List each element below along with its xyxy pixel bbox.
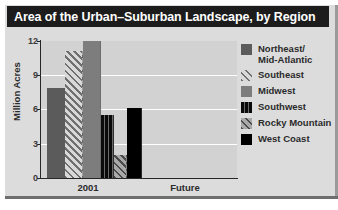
legend-item-southeast[interactable]: Southeast: [241, 69, 336, 81]
bar-southwest-2001: [101, 115, 114, 178]
legend-label-northeast-mid-atlantic: Northeast/ Mid-Atlantic: [258, 43, 312, 65]
y-tick-label-12: 12: [22, 37, 38, 46]
x-axis-line: [40, 178, 238, 179]
legend-item-rocky-mountain[interactable]: Rocky Mountain: [241, 117, 336, 129]
legend-swatch-icon-southeast: [241, 70, 252, 81]
legend-label-west-coast: West Coast: [258, 133, 310, 144]
chart-legend: Northeast/ Mid-Atlantic Southeast Midwes…: [241, 43, 336, 149]
chart-title-bar: Area of the Urban–Suburban Landscape, by…: [7, 6, 329, 27]
legend-label-rocky-mountain: Rocky Mountain: [258, 117, 331, 128]
y-axis-title: Million Acres: [11, 47, 22, 137]
y-tick-label-0: 0: [22, 174, 38, 183]
x-tick-label-2001: 2001: [58, 182, 118, 193]
legend-swatch-icon-northeast-mid-atlantic: [241, 44, 252, 55]
legend-swatch-icon-rocky-mountain: [241, 118, 252, 129]
figure-margin-left: [0, 0, 5, 210]
y-tick-label-6: 6: [22, 105, 38, 114]
legend-item-midwest[interactable]: Midwest: [241, 85, 336, 97]
figure-margin-bottom: [0, 199, 338, 210]
legend-label-southeast: Southeast: [258, 69, 304, 80]
legend-item-northeast-mid-atlantic[interactable]: Northeast/ Mid-Atlantic: [241, 43, 336, 65]
bar-rocky-mountain-2001: [114, 155, 127, 178]
legend-label-southwest: Southwest: [258, 101, 306, 112]
legend-label-midwest: Midwest: [258, 85, 295, 96]
legend-swatch-icon-southwest: [241, 102, 252, 113]
bar-west-coast-2001: [127, 108, 142, 178]
y-tick-label-3: 3: [22, 140, 38, 149]
bar-northeast-mid-atlantic-2001: [47, 88, 65, 178]
plot-area: [41, 41, 237, 178]
page-title: Area of the Urban–Suburban Landscape, by…: [7, 10, 316, 24]
chart-figure: Area of the Urban–Suburban Landscape, by…: [0, 0, 338, 210]
bar-midwest-2001: [83, 41, 101, 178]
y-tick-label-9: 9: [22, 71, 38, 80]
legend-swatch-icon-west-coast: [241, 134, 252, 145]
legend-item-west-coast[interactable]: West Coast: [241, 133, 336, 145]
legend-item-southwest[interactable]: Southwest: [241, 101, 336, 113]
bar-southeast-2001: [65, 51, 83, 178]
x-tick-label-future: Future: [155, 182, 215, 193]
figure-margin-top: [0, 0, 338, 5]
legend-swatch-icon-midwest: [241, 86, 252, 97]
